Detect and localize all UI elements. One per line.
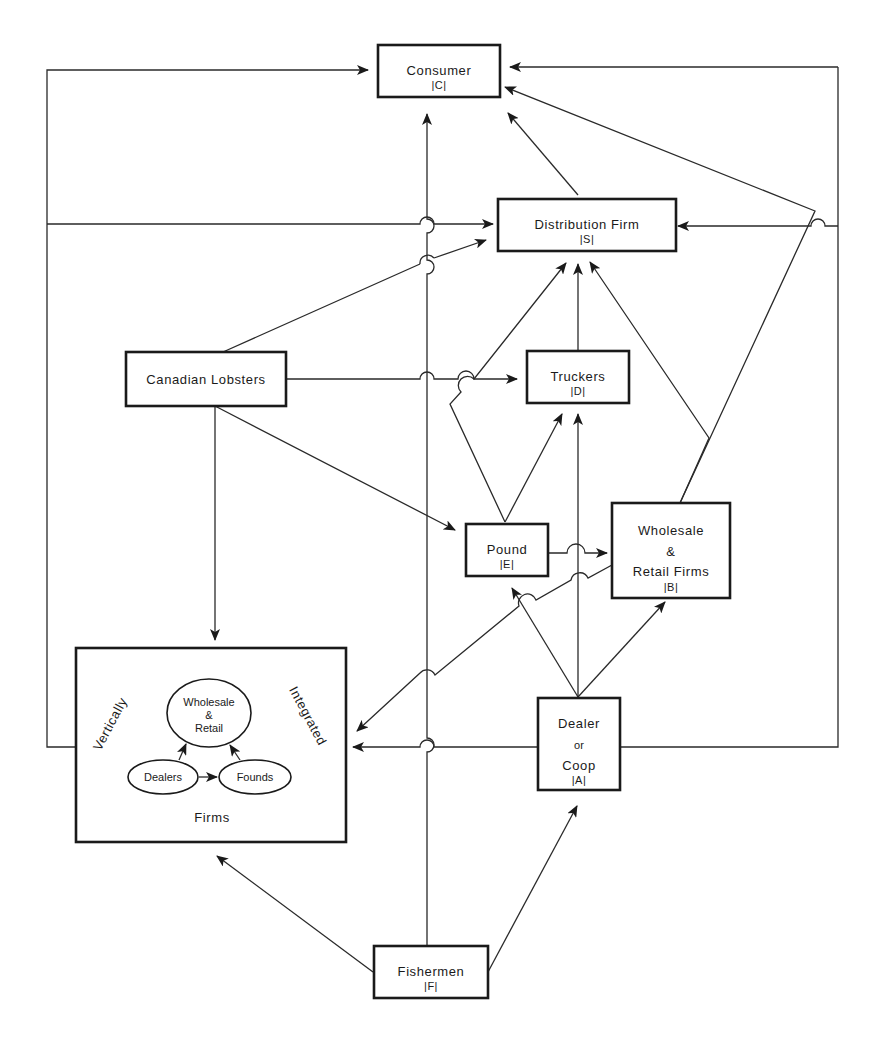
edge-dealer-pound <box>512 588 578 697</box>
distribution-label: Distribution Firm <box>535 217 640 232</box>
inner-wholesale-retail: Wholesale & Retail <box>167 679 251 747</box>
distribution-code: |S| <box>580 233 595 245</box>
edge-vif-distribution <box>47 217 493 224</box>
wholesale-line2: & <box>666 544 675 559</box>
consumer-code: |C| <box>431 79 446 91</box>
dealer-line2: or <box>574 739 584 751</box>
edge-fishermen-dealer <box>488 806 577 972</box>
edge-dealer-right-loop <box>620 67 838 747</box>
wholesale-line1: Wholesale <box>638 523 704 538</box>
consumer-label: Consumer <box>407 63 472 78</box>
edge-canadian-distribution <box>223 240 486 352</box>
inner-wholesale-line2: & <box>205 709 213 721</box>
edge-dealer-wholesale <box>578 602 665 697</box>
truckers-code: |D| <box>570 385 585 397</box>
pound-label: Pound <box>487 542 528 557</box>
fishermen-label: Fishermen <box>398 964 465 979</box>
vif-word-firms: Firms <box>194 810 230 825</box>
edge-fishermen-consumer <box>427 114 434 955</box>
node-wholesale-retail-firms: Wholesale & Retail Firms |B| <box>612 503 730 598</box>
truckers-label: Truckers <box>551 369 606 384</box>
dealer-code: |A| <box>572 774 587 786</box>
edge-canadian-pound <box>215 406 455 530</box>
inner-founds-label: Founds <box>237 771 274 783</box>
edge-dealer-vif <box>353 740 537 747</box>
inner-dealers-label: Dealers <box>144 771 182 783</box>
node-consumer: Consumer |C| <box>378 45 500 97</box>
fishermen-code: |F| <box>424 980 438 992</box>
wholesale-line3: Retail Firms <box>633 564 710 579</box>
node-vertically-integrated-firms: Vertically Integrated Firms Wholesale & … <box>76 648 346 842</box>
dealer-line1: Dealer <box>558 716 600 731</box>
node-fishermen: Fishermen |F| <box>374 946 488 998</box>
edge-vif-consumer <box>47 70 368 747</box>
node-pound: Pound |E| <box>466 524 548 576</box>
node-truckers: Truckers |D| <box>527 351 629 403</box>
node-canadian-lobsters: Canadian Lobsters <box>126 352 286 406</box>
node-dealer-coop: Dealer or Coop |A| <box>538 698 620 790</box>
inner-wholesale-line3: Retail <box>195 722 223 734</box>
edge-pound-wholesale <box>547 544 607 553</box>
node-distribution-firm: Distribution Firm |S| <box>498 199 676 251</box>
canadian-label: Canadian Lobsters <box>146 372 265 387</box>
inner-founds: Founds <box>219 760 291 794</box>
lobster-distribution-diagram: Consumer |C| Distribution Firm |S| Canad… <box>0 0 887 1052</box>
inner-dealers: Dealers <box>128 760 198 794</box>
edge-canadian-truckers <box>286 371 517 379</box>
pound-code: |E| <box>500 558 515 570</box>
inner-wholesale-line1: Wholesale <box>183 696 234 708</box>
edge-wholesale-consumer <box>505 87 815 503</box>
edge-distribution-consumer <box>508 113 578 195</box>
dealer-line3: Coop <box>562 758 595 773</box>
wholesale-code: |B| <box>664 581 679 593</box>
edge-fishermen-vif <box>217 856 373 972</box>
edge-dealer-distribution <box>678 219 838 226</box>
edge-pound-truckers <box>505 414 562 522</box>
